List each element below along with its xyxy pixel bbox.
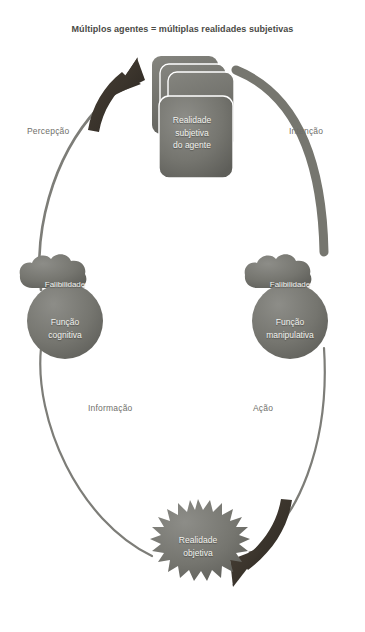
- right-cloud-label: Falibilidade: [247, 279, 333, 292]
- edge-label-intencao: Intenção: [289, 126, 323, 136]
- starburst-label: Realidade objetiva: [158, 534, 238, 559]
- left-node-shapes: [20, 254, 103, 359]
- edge-label-percepcao: Percepção: [27, 126, 69, 136]
- card-stack-label: Realidade subjetiva do agente: [152, 114, 232, 152]
- diagram-canvas: Múltiplos agentes = múltiplas realidades…: [0, 0, 365, 632]
- left-circle-label: Função cognitiva: [22, 316, 108, 341]
- edge-label-acao: Ação: [253, 403, 273, 413]
- perception-arrow: [88, 57, 145, 132]
- right-node-shapes: [245, 254, 328, 359]
- page-title: Múltiplos agentes = múltiplas realidades…: [0, 24, 365, 34]
- left-cloud-label: Falibilidade: [22, 279, 108, 292]
- edge-label-informacao: Informação: [88, 403, 133, 413]
- right-circle-label: Função manipulativa: [247, 316, 333, 341]
- intention-curve: [236, 70, 324, 252]
